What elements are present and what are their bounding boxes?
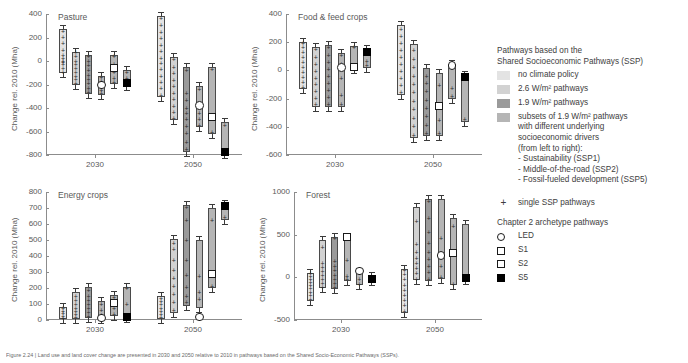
- whisker-cap: [196, 82, 202, 83]
- y-tickmark: [46, 132, 49, 133]
- legend-swatch-list: no climate policy2.6 W/m² pathways1.9 W/…: [497, 70, 688, 122]
- ssp-pathway-plus-icon: +: [182, 130, 191, 137]
- ssp-pathway-plus-icon: +: [409, 73, 418, 80]
- y-tick-food-feed-crops-1: 200: [254, 37, 282, 46]
- ssp-pathway-plus-icon: +: [195, 86, 204, 93]
- whisker-cap: [364, 45, 370, 46]
- ssp-pathway-plus-icon: +: [397, 75, 406, 82]
- y-tickmark: [294, 235, 297, 236]
- whisker-cap: [222, 224, 228, 225]
- archetype-marker-circle: [195, 101, 204, 110]
- plus-icon: +: [497, 198, 510, 208]
- y-tickmark: [294, 320, 297, 321]
- whisker-cap: [313, 43, 319, 44]
- ssp-pathway-plus-icon: +: [397, 89, 406, 96]
- x-tick-food-feed-crops-0: 2030: [313, 160, 357, 169]
- ssp-pathway-plus-icon: +: [424, 269, 433, 276]
- y-tickmark: [46, 288, 49, 289]
- y-tickmark: [46, 224, 49, 225]
- ssp-pathway-plus-icon: +: [337, 52, 346, 59]
- ssp-pathway-plus-icon: +: [208, 283, 217, 290]
- ssp-pathway-plus-icon: +: [157, 73, 166, 80]
- ssp-pathway-plus-icon: +: [169, 267, 178, 274]
- legend-archetype-heading: Chapter 2 archetype pathways: [497, 218, 688, 229]
- y-axis-label-food-feed-crops: Change rel. 2010 (Mha): [250, 46, 259, 131]
- ssp-pathway-plus-icon: +: [412, 218, 421, 225]
- ssp-pathway-plus-icon: +: [59, 34, 68, 41]
- ssp-pathway-plus-icon: +: [409, 81, 418, 88]
- legend-label-rcp19-subsets: subsets of 1.9 W/m² pathways: [518, 112, 628, 123]
- whisker-cap: [338, 49, 344, 50]
- ssp-pathway-plus-icon: +: [424, 198, 433, 205]
- whisker-cap: [326, 111, 332, 112]
- ssp-pathway-plus-icon: +: [337, 75, 346, 82]
- legend-item-rcp26: 2.6 W/m² pathways: [497, 84, 688, 95]
- whisker-cap: [209, 204, 215, 205]
- ssp-pathway-plus-icon: +: [424, 249, 433, 256]
- ssp-pathway-plus-icon: +: [409, 106, 418, 113]
- archetype-marker-square: [435, 102, 443, 110]
- x-tick-pasture-0: 2030: [73, 160, 117, 169]
- archetype-marker-circle: [97, 81, 106, 90]
- whisker-cap: [184, 63, 190, 64]
- ssp-pathway-plus-icon: +: [324, 44, 333, 51]
- ssp-pathway-plus-icon: +: [355, 276, 364, 283]
- y-tickmark: [46, 155, 49, 156]
- y-tickmark: [294, 192, 297, 193]
- ssp-pathway-plus-icon: +: [409, 47, 418, 54]
- whisker-cap: [307, 305, 313, 306]
- whisker-cap: [222, 158, 228, 159]
- y-tickmark: [286, 70, 289, 71]
- whisker-cap: [171, 317, 177, 318]
- ssp-pathway-plus-icon: +: [59, 47, 68, 54]
- y-tick-forest-0: 1000: [262, 187, 290, 196]
- whisker-cap: [196, 236, 202, 237]
- y-tickmark: [286, 127, 289, 128]
- ssp-pathway-plus-icon: +: [343, 257, 352, 264]
- whisker-cap: [351, 42, 357, 43]
- ssp-pathway-plus-icon: +: [182, 146, 191, 153]
- whisker-cap: [313, 111, 319, 112]
- y-tick-food-feed-crops-0: 400: [254, 9, 282, 18]
- ssp-pathway-plus-icon: +: [324, 87, 333, 94]
- x-tickmark: [95, 320, 96, 323]
- archetype-marker-filled-square: [221, 202, 229, 210]
- whisker-cap: [184, 201, 190, 202]
- ssp-pathway-plus-icon: +: [169, 109, 178, 116]
- legend-archetype-s5: S5: [497, 273, 688, 284]
- legend-item-rcp19: 1.9 W/m² pathways: [497, 98, 688, 109]
- whisker-cap: [320, 236, 326, 237]
- whisker-cap: [351, 73, 357, 74]
- whisker-cap: [300, 93, 306, 94]
- ssp-pathway-plus-icon: +: [422, 113, 431, 120]
- archetype-marker-filled-square: [461, 73, 469, 81]
- whisker-cap: [86, 98, 92, 99]
- legend-spacer-2: [497, 209, 688, 218]
- panel-title-food-feed-crops: Food & feed crops: [298, 12, 367, 22]
- legend-item-no-climate-policy: no climate policy: [497, 70, 688, 81]
- whisker-cap: [450, 289, 456, 290]
- whisker-cap: [426, 195, 432, 196]
- y-tick-food-feed-crops-5: -600: [254, 150, 282, 159]
- ssp-pathway-plus-icon: +: [460, 116, 469, 123]
- whisker-cap: [98, 297, 104, 298]
- ssp-pathway-plus-icon: +: [220, 122, 229, 129]
- ssp-pathway-plus-icon: +: [182, 257, 191, 264]
- y-tickmark: [46, 320, 49, 321]
- ssp-pathway-plus-icon: +: [208, 129, 217, 136]
- whisker-cap: [209, 63, 215, 64]
- legend-label-no-climate-policy: no climate policy: [518, 70, 579, 81]
- ssp-pathway-plus-icon: +: [409, 132, 418, 139]
- ssp-pathway-plus-icon: +: [337, 101, 346, 108]
- y-tick-forest-2: 0: [262, 272, 290, 281]
- whisker-cap: [60, 25, 66, 26]
- legend-single-pathway-label: single SSP pathways: [518, 198, 595, 209]
- legend-subset-line-5: - Fossil-fueled development (SSP5): [518, 175, 688, 186]
- ssp-pathway-plus-icon: +: [448, 85, 457, 92]
- archetype-marker-filled-square: [363, 48, 371, 56]
- panel-title-pasture: Pasture: [58, 12, 87, 22]
- marker-filled-square-icon: [497, 273, 510, 284]
- y-tickmark: [46, 272, 49, 273]
- legend-archetype-label-led: LED: [518, 231, 534, 242]
- whisker-cap: [438, 283, 444, 284]
